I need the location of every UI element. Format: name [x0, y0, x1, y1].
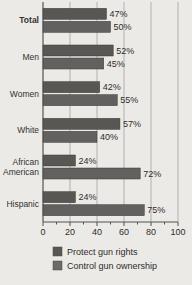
category-label: Hispanic [6, 199, 39, 209]
x-tick-label: 80 [146, 227, 156, 237]
bar-value-label: 55% [120, 95, 138, 105]
x-tick-label: 40 [92, 227, 102, 237]
bar [43, 82, 100, 93]
legend-label: Protect gun rights [67, 247, 138, 257]
bar [43, 58, 104, 69]
bar-value-label: 72% [143, 169, 161, 179]
bar [43, 168, 140, 179]
bar [43, 155, 75, 166]
category-label: African [13, 157, 40, 167]
bar [43, 118, 120, 129]
bar-value-label: 24% [78, 192, 96, 202]
legend-label: Control gun ownership [67, 261, 157, 271]
bar-value-label: 47% [109, 9, 127, 19]
category-label: Men [22, 52, 39, 62]
bar [43, 45, 113, 56]
bar-value-label: 50% [114, 22, 132, 32]
category-label: White [17, 125, 39, 135]
x-tick-label: 100 [170, 227, 185, 237]
grouped-bar-chart: 47%50%52%45%42%55%57%40%24%72%24%75% Tot… [0, 0, 192, 285]
bar-value-label: 52% [116, 46, 134, 56]
bar-value-label: 45% [107, 59, 125, 69]
x-tick-label: 0 [40, 227, 45, 237]
bar-value-label: 40% [100, 132, 118, 142]
category-label: Total [19, 15, 39, 25]
x-tick-label: 20 [65, 227, 75, 237]
bar [43, 131, 97, 142]
bar-value-label: 42% [103, 82, 121, 92]
bar-value-label: 57% [123, 119, 141, 129]
bar [43, 21, 111, 32]
bar-value-label: 75% [147, 205, 165, 215]
bar [43, 8, 106, 19]
legend-swatch [53, 261, 62, 270]
bar [43, 95, 117, 106]
x-tick-label: 60 [119, 227, 129, 237]
bar-value-label: 24% [78, 156, 96, 166]
category-label: American [3, 167, 39, 177]
bar [43, 205, 144, 216]
bar [43, 192, 75, 203]
legend-swatch [53, 247, 62, 256]
category-label: Women [10, 89, 39, 99]
